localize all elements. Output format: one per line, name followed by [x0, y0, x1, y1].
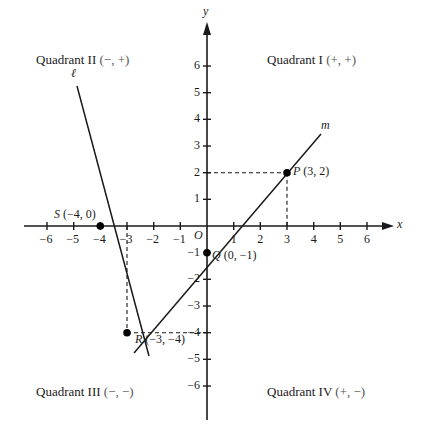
x-axis-arrow-icon — [382, 222, 394, 230]
x-tick-label: −3 — [114, 232, 138, 247]
y-tick-label: 6 — [176, 58, 200, 73]
x-tick-label: −5 — [61, 232, 85, 247]
line-l-label: ℓ — [71, 66, 76, 81]
quadrant-3-name: Quadrant III — [36, 384, 101, 399]
point-s-letter: S — [54, 207, 60, 221]
y-tick-label: −1 — [176, 245, 200, 260]
x-axis — [24, 222, 394, 230]
y-tick-label: 5 — [176, 85, 200, 100]
point-q-letter: Q — [212, 248, 221, 262]
quadrant-3-label: Quadrant III (−, −) — [36, 384, 134, 400]
y-axis-arrow-icon — [203, 22, 211, 35]
point-p-coords: (3, 2) — [303, 164, 329, 178]
quadrant-1-label: Quadrant I (+, +) — [267, 52, 356, 68]
quadrant-4-label: Quadrant IV (+, −) — [267, 384, 365, 400]
quadrant-1-name: Quadrant I — [267, 52, 323, 67]
point-p-label: P (3, 2) — [293, 164, 329, 179]
y-axis-name: y — [203, 4, 208, 19]
y-tick-label: −3 — [176, 298, 200, 313]
quadrant-2-name: Quadrant II — [36, 52, 96, 67]
x-tick-label: −6 — [34, 232, 58, 247]
x-tick-label: 2 — [248, 232, 272, 247]
quadrant-4-name: Quadrant IV — [267, 384, 332, 399]
point-r-coords: (−3, −4) — [145, 332, 185, 346]
point-p — [283, 169, 291, 177]
quadrant-4-sign: (+, −) — [335, 384, 365, 399]
origin-label: O — [194, 228, 203, 243]
point-r-label: R (−3, −4) — [135, 332, 185, 347]
y-tick-label: 4 — [176, 111, 200, 126]
point-s-label: S (−4, 0) — [54, 207, 96, 222]
x-tick-label: −4 — [87, 232, 111, 247]
y-tick-label: 1 — [176, 191, 200, 206]
quadrant-2-sign: (−, +) — [100, 52, 130, 67]
x-tick-label: 1 — [222, 232, 246, 247]
y-tick-label: −6 — [176, 378, 200, 393]
point-r — [123, 329, 131, 337]
point-q — [203, 249, 211, 257]
point-q-coords: (0, −1) — [224, 248, 257, 262]
y-tick-label: −2 — [176, 271, 200, 286]
y-axis — [203, 22, 211, 420]
x-tick-label: 4 — [302, 232, 326, 247]
x-tick-label: −2 — [141, 232, 165, 247]
point-q-label: Q (0, −1) — [212, 248, 256, 263]
y-tick-label: 3 — [176, 138, 200, 153]
point-s — [97, 222, 105, 230]
quadrant-1-sign: (+, +) — [326, 52, 356, 67]
x-tick-label: 3 — [275, 232, 299, 247]
point-s-coords: (−4, 0) — [63, 207, 96, 221]
line-m-label: m — [321, 118, 330, 133]
quadrant-2-label: Quadrant II (−, +) — [36, 52, 129, 68]
x-tick-label: 6 — [355, 232, 379, 247]
y-tick-label: −5 — [176, 351, 200, 366]
quadrant-3-sign: (−, −) — [104, 384, 134, 399]
point-r-letter: R — [135, 332, 142, 346]
y-tick-label: 2 — [176, 165, 200, 180]
point-p-letter: P — [293, 164, 300, 178]
x-axis-name: x — [397, 217, 402, 232]
x-tick-label: 5 — [328, 232, 352, 247]
